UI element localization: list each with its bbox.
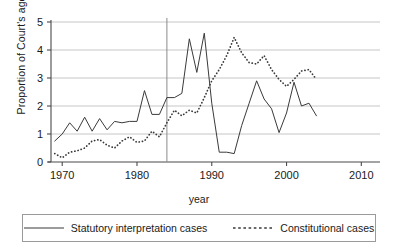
legend-label-statutory: Statutory interpretation cases [71,222,208,234]
legend-item-constitutional: Constitutional cases [233,222,374,234]
x-tick-label-1970: 1970 [50,169,74,181]
y-tick-label-3: 3 [37,72,43,84]
x-tick-label-1990: 1990 [200,169,224,181]
chart-svg: 01234519701980199020002010 [0,0,398,200]
legend-label-constitutional: Constitutional cases [280,222,374,234]
x-tick-label-2000: 2000 [274,169,298,181]
x-tick-label-1980: 1980 [125,169,149,181]
y-tick-label-0: 0 [37,156,43,168]
series-line-statutory [55,33,317,153]
y-tick-label-1: 1 [37,128,43,140]
chart-figure: Proportion of Court's agenda year 012345… [0,0,398,250]
legend-line-dotted-icon [233,223,273,233]
y-tick-label-2: 2 [37,100,43,112]
chart-legend: Statutory interpretation cases Constitut… [22,214,376,242]
y-tick-label-5: 5 [37,16,43,28]
x-tick-label-2010: 2010 [349,169,373,181]
series-line-constitutional [55,37,317,157]
plot-area: 01234519701980199020002010 [0,0,398,200]
legend-item-statutory: Statutory interpretation cases [24,222,208,234]
y-tick-label-4: 4 [37,44,43,56]
legend-line-solid-icon [24,223,64,233]
